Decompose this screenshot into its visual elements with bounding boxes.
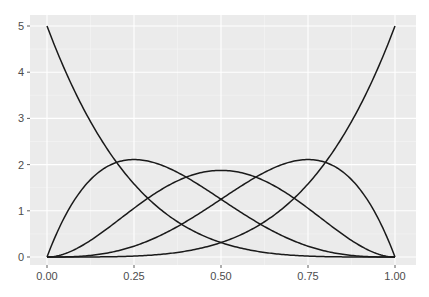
y-tick-label: 0 xyxy=(18,251,24,263)
chart: 012345 0.000.250.500.751.00 xyxy=(0,0,429,297)
x-tick-label: 0.50 xyxy=(210,270,231,282)
y-tick-label: 2 xyxy=(18,159,24,171)
x-tick-label: 0.00 xyxy=(36,270,57,282)
y-tick-label: 1 xyxy=(18,205,24,217)
x-axis: 0.000.250.500.751.00 xyxy=(36,265,405,282)
y-tick-label: 4 xyxy=(18,66,24,78)
y-tick-label: 5 xyxy=(18,20,24,32)
x-tick-label: 0.75 xyxy=(297,270,318,282)
y-tick-label: 3 xyxy=(18,112,24,124)
x-tick-label: 0.25 xyxy=(123,270,144,282)
x-tick-label: 1.00 xyxy=(384,270,405,282)
y-axis: 012345 xyxy=(18,20,30,263)
plot-panel xyxy=(30,15,416,265)
